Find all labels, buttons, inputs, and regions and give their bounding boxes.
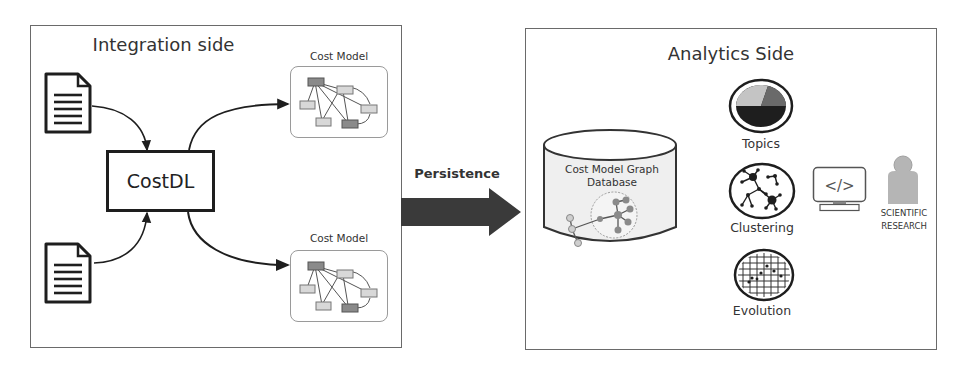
cluster-network-icon: [728, 162, 796, 220]
graph-icon: [290, 66, 388, 138]
costdl-label: CostDL: [127, 170, 194, 192]
clustering-label: Clustering: [722, 220, 802, 235]
document-icon: [44, 242, 94, 306]
code-monitor-icon: </>: [812, 166, 868, 216]
persistence-label: Persistence: [402, 166, 512, 181]
scientific-label: SCIENTIFIC: [868, 208, 940, 218]
cost-model-label: Cost Model: [290, 50, 388, 62]
person-icon: [883, 154, 923, 204]
cost-model-label: Cost Model: [290, 232, 388, 244]
costdl-processor: CostDL: [106, 150, 215, 212]
pie-chart-icon: [728, 78, 794, 134]
grid-plot-icon: [733, 248, 795, 302]
database-cylinder-icon: [542, 127, 682, 257]
analytics-panel-title: Analytics Side: [526, 43, 936, 64]
right-arrow-icon: [401, 188, 526, 238]
document-icon: [44, 72, 94, 136]
evolution-label: Evolution: [722, 303, 802, 318]
graph-icon: [290, 250, 388, 322]
topics-label: Topics: [726, 136, 796, 151]
svg-text:</>: </>: [824, 177, 854, 195]
database-label-line2: Database: [544, 176, 680, 188]
database-label-line1: Cost Model Graph: [544, 163, 680, 175]
research-label: RESEARCH: [868, 221, 940, 231]
